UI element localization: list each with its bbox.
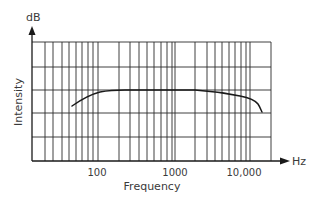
y-unit-label: dB	[26, 11, 41, 24]
y-axis-title: Intensity	[12, 78, 25, 126]
x-unit-label: Hz	[292, 155, 306, 168]
x-axis-title: Frequency	[124, 180, 181, 193]
x-tick-label: 100	[87, 167, 106, 178]
x-axis-arrow-icon	[280, 158, 290, 165]
x-tick-label: 1000	[162, 167, 187, 178]
frequency-response-chart: dB Hz Intensity Frequency 100 1000 10,00…	[0, 0, 316, 206]
y-axis-arrow-icon	[29, 26, 36, 35]
x-tick-label: 10,000	[227, 167, 262, 178]
